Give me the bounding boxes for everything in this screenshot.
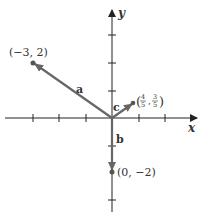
y-axis-label: y (117, 6, 126, 20)
x-axis-label: x (187, 121, 196, 135)
vector-a (35, 64, 112, 118)
point-c (131, 101, 136, 106)
svg-text:): ) (159, 94, 164, 109)
vector-diagram: y x a b c (−3, 2) (0, −2) ( 4 5 , 3 5 ) (0, 0, 209, 223)
svg-text:5: 5 (153, 101, 157, 109)
svg-text:5: 5 (141, 101, 145, 109)
vector-c-label: c (113, 101, 120, 114)
svg-text:,: , (148, 96, 151, 106)
point-b (110, 170, 115, 175)
point-b-label: (0, −2) (117, 166, 156, 179)
vector-b-label: b (116, 133, 124, 146)
point-a-label: (−3, 2) (9, 46, 48, 59)
point-a (31, 61, 36, 66)
svg-text:3: 3 (153, 93, 157, 101)
vector-a-label: a (76, 83, 83, 96)
svg-text:4: 4 (141, 93, 145, 101)
point-c-label: ( 4 5 , 3 5 ) (136, 93, 164, 109)
